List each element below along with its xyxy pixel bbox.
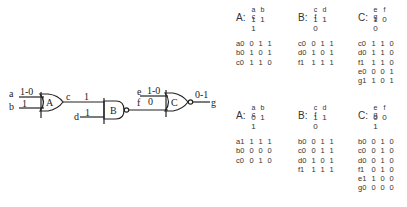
val: 1 xyxy=(249,24,258,33)
var: d xyxy=(320,6,329,13)
table-row: e1100 xyxy=(358,174,396,183)
table-row: c0011 xyxy=(298,39,336,48)
val: 0 xyxy=(380,15,389,24)
truth-table-c-bottom: C: efg 001 b0010 c0010 d0010 f1010 e1100… xyxy=(358,104,396,193)
table-row: a1111 xyxy=(236,137,274,146)
val: 1 xyxy=(249,122,258,131)
table-row: g1101 xyxy=(358,76,396,85)
signal-a-value: 1-0 xyxy=(20,87,33,97)
signal-e-value: 1-0 xyxy=(147,86,160,96)
signal-d-label: d xyxy=(74,112,79,122)
truth-table-c-top: C: efg 100 c0110 d0110 f1110 e0001 g1101 xyxy=(358,6,396,85)
truth-table-b-top: B: cdf 110 c0011 d0101 f1111 xyxy=(298,6,336,67)
table-row: b0011 xyxy=(298,137,336,146)
table-row: b0101 xyxy=(236,48,274,57)
table-row: c0011 xyxy=(298,146,336,155)
val: 1 xyxy=(320,113,329,122)
table-gate-label: C: xyxy=(358,110,368,121)
val: 0 xyxy=(371,113,380,122)
table-row: f1111 xyxy=(298,165,336,174)
table-row: d0110 xyxy=(358,48,396,57)
table-row: c0010 xyxy=(358,146,396,155)
truth-table-a-top: A: abc 111 a0011 b0101 c0110 xyxy=(236,6,274,67)
val: 0 xyxy=(311,122,320,131)
var: e xyxy=(371,104,380,111)
table-row: a0011 xyxy=(236,39,274,48)
table-row: e0001 xyxy=(358,67,396,76)
signal-g-label: g xyxy=(211,98,216,108)
table-gate-label: A: xyxy=(236,12,245,23)
val: 0 xyxy=(311,24,320,33)
signal-b-label: b xyxy=(9,102,14,112)
var: e xyxy=(371,6,380,13)
signal-a-label: a xyxy=(9,89,13,99)
var: c xyxy=(311,104,320,111)
val: 0 xyxy=(371,24,380,33)
signal-c-label: c xyxy=(66,92,70,102)
table-gate-label: B: xyxy=(298,12,307,23)
table-gate-label: C: xyxy=(358,12,368,23)
val: 1 xyxy=(320,15,329,24)
val: 1 xyxy=(311,15,320,24)
table-row: b0000 xyxy=(236,146,274,155)
val: 1 xyxy=(311,113,320,122)
signal-d-value: 1 xyxy=(85,108,90,118)
gate-c-label: C xyxy=(171,98,178,108)
signal-f-value: 0 xyxy=(148,97,153,107)
var: f xyxy=(380,6,389,13)
var: b xyxy=(258,6,267,13)
logic-circuit: a 1-0 b 1 A c 1 d 1 B e 1-0 f 0 C 0-1 g xyxy=(0,0,230,207)
gate-b-label: B xyxy=(110,106,117,116)
val: 1 xyxy=(371,15,380,24)
val: 1 xyxy=(371,122,380,131)
val: 0 xyxy=(380,113,389,122)
signal-c-value: 1 xyxy=(84,92,89,102)
truth-table-a-bottom: A: abc 011 a1111 b0000 c0010 xyxy=(236,104,274,165)
circuit-wiring xyxy=(0,0,230,207)
table-row: d0101 xyxy=(298,156,336,165)
table-gate-label: B: xyxy=(298,110,307,121)
table-row: b0010 xyxy=(358,137,396,146)
table-row: c0110 xyxy=(358,39,396,48)
var: f xyxy=(380,104,389,111)
gate-a-label: A xyxy=(46,98,53,108)
val: 1 xyxy=(258,113,267,122)
table-row: f1111 xyxy=(298,58,336,67)
table-row: f1110 xyxy=(358,58,396,67)
val: 1 xyxy=(249,15,258,24)
var: c xyxy=(311,6,320,13)
signal-e-label: e xyxy=(137,87,141,97)
table-row: c0110 xyxy=(236,58,274,67)
var: b xyxy=(258,104,267,111)
table-gate-label: A: xyxy=(236,110,245,121)
table-row: g0000 xyxy=(358,183,396,192)
val: 0 xyxy=(249,113,258,122)
signal-g-value: 0-1 xyxy=(195,90,208,100)
var: a xyxy=(249,104,258,111)
signal-b-value: 1 xyxy=(22,99,27,109)
table-row: f1010 xyxy=(358,165,396,174)
signal-f-label: f xyxy=(137,98,140,108)
val: 1 xyxy=(258,15,267,24)
table-row: d0101 xyxy=(298,48,336,57)
var: d xyxy=(320,104,329,111)
truth-table-b-bottom: B: cdf 110 b0011 c0011 d0101 f1111 xyxy=(298,104,336,174)
table-row: c0010 xyxy=(236,156,274,165)
var: a xyxy=(249,6,258,13)
table-row: d0010 xyxy=(358,156,396,165)
